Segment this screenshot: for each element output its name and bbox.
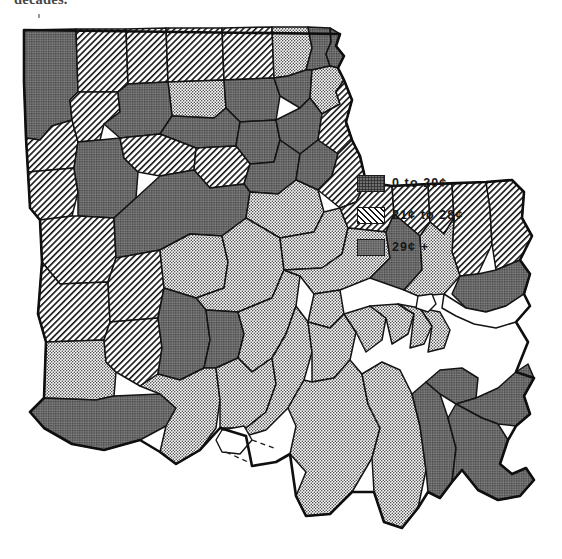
parish-lincoln: [168, 80, 226, 118]
water-lake-maurepas: [416, 294, 436, 312]
legend-swatch-solid-icon: [357, 239, 385, 256]
parish-layer: [24, 27, 534, 528]
parish-allen: [108, 250, 164, 322]
parish-webster: [126, 28, 168, 84]
parish-sabine: [28, 168, 78, 220]
map-svg: [0, 22, 562, 559]
legend-row-0: 0 to 20¢: [357, 172, 507, 194]
legend-label-2: 29¢ +: [392, 240, 429, 254]
legend-swatch-stipple-icon: [357, 175, 385, 192]
legend-row-1: 21¢ to 28¢: [357, 204, 507, 226]
legend-swatch-hatch-icon: [357, 207, 385, 224]
map-legend: 0 to 20¢ 21¢ to 28¢ 29¢ +: [357, 172, 507, 268]
legend-label-1: 21¢ to 28¢: [392, 208, 463, 222]
scan-speck: [38, 14, 40, 18]
parish-bossier: [76, 29, 128, 92]
legend-row-2: 29¢ +: [357, 236, 507, 258]
clipped-caption-text: decades.: [14, 0, 68, 8]
parish-cameron: [30, 394, 176, 450]
parish-union: [222, 27, 274, 80]
legend-label-0: 0 to 20¢: [392, 176, 447, 190]
parish-claiborne: [166, 28, 224, 82]
louisiana-parish-map: 0 to 20¢ 21¢ to 28¢ 29¢ +: [0, 22, 562, 559]
